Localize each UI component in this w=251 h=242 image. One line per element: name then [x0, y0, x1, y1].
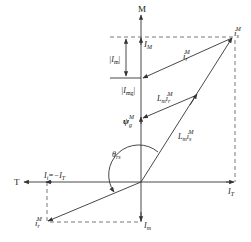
- label-im-abs: |Im|: [109, 55, 120, 65]
- svg-text:Im: Im: [143, 221, 152, 231]
- ir-lower-vector: [48, 182, 141, 221]
- label-img-abs: |Img|: [121, 86, 135, 96]
- m-axis-label: M: [138, 4, 146, 14]
- svg-text:ψgM: ψgM: [123, 114, 135, 128]
- svg-text:isM: isM: [234, 26, 242, 39]
- label-im-bottom: Im: [143, 221, 152, 231]
- label-psi: ψgM: [123, 114, 135, 128]
- label-lm-is: LmisM: [177, 129, 194, 142]
- svg-text:|Im|: |Im|: [109, 55, 120, 65]
- label-IM: IM: [143, 39, 153, 50]
- svg-text:|Img|: |Img|: [121, 86, 135, 96]
- label-ir-lower: irM: [35, 216, 43, 229]
- label-ir-upper: irM: [183, 49, 191, 62]
- svg-text:It=−IT: It=−IT: [43, 171, 66, 181]
- svg-text:irM: irM: [183, 49, 191, 62]
- svg-text:IT: IT: [227, 187, 235, 197]
- t-axis-label: T: [14, 177, 20, 187]
- label-it-eq: It=−IT: [43, 171, 66, 181]
- label-lm-ir: LmirM: [156, 91, 173, 104]
- svg-text:irM: irM: [35, 216, 43, 229]
- svg-text:LmirM: LmirM: [156, 91, 173, 104]
- label-IT: IT: [227, 187, 235, 197]
- vector-diagram: M T isM IM irM |Im| |Img| LmirM: [0, 0, 251, 242]
- svg-text:LmisM: LmisM: [177, 129, 194, 142]
- svg-text:IM: IM: [143, 39, 153, 50]
- label-is-M: isM: [234, 26, 242, 39]
